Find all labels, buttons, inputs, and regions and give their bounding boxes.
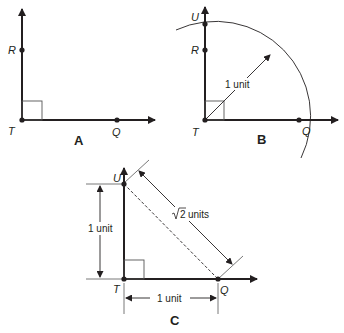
label-u: U xyxy=(113,172,121,184)
label-r: R xyxy=(8,44,16,56)
label-q: Q xyxy=(112,126,121,138)
label-t: T xyxy=(192,126,200,138)
point-t xyxy=(121,276,126,281)
right-angle-mark xyxy=(22,101,42,120)
hypotenuse-units: units xyxy=(188,209,209,220)
panel-a: R T Q A xyxy=(8,9,155,148)
point-u xyxy=(121,181,126,186)
label-t: T xyxy=(8,125,16,137)
point-r xyxy=(19,47,24,52)
panel-b: 1 unit U R T Q B xyxy=(176,7,338,158)
panel-c: 1 unit 1 unit 2 units U T Q C xyxy=(82,160,257,328)
point-q xyxy=(215,276,220,281)
label-u: U xyxy=(191,11,199,23)
point-t xyxy=(202,117,207,122)
point-r xyxy=(202,47,207,52)
caption-a: A xyxy=(74,133,84,148)
label-r: R xyxy=(191,44,199,56)
label-q: Q xyxy=(220,284,229,296)
hypotenuse-root: 2 xyxy=(180,209,186,220)
point-u xyxy=(202,21,207,26)
point-t xyxy=(19,117,24,122)
ext-line-q-diag xyxy=(218,256,243,279)
horizontal-label: 1 unit xyxy=(157,293,182,304)
figure: R T Q A 1 unit U R T Q B xyxy=(0,0,344,333)
label-t: T xyxy=(113,283,121,295)
right-angle-mark xyxy=(124,260,144,279)
vertical-label: 1 unit xyxy=(88,223,113,234)
caption-c: C xyxy=(170,313,180,328)
radius-label: 1 unit xyxy=(225,79,250,90)
caption-b: B xyxy=(257,132,266,147)
hypotenuse-dashed xyxy=(124,184,218,279)
point-q xyxy=(296,117,301,122)
ext-line-u-diag xyxy=(124,160,149,183)
point-q xyxy=(114,117,119,122)
geometry-diagram: R T Q A 1 unit U R T Q B xyxy=(0,0,344,333)
label-q: Q xyxy=(302,125,311,137)
